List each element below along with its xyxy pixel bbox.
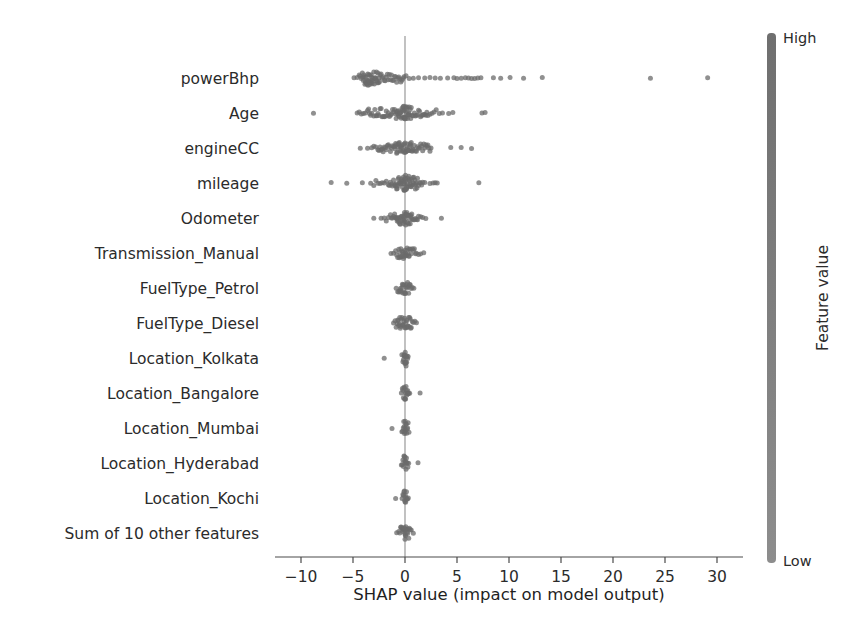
shap-point xyxy=(360,180,365,185)
feature-label-transmission-manual: Transmission_Manual xyxy=(94,245,259,264)
shap-point xyxy=(406,461,411,466)
x-tick-label: 10 xyxy=(499,568,519,586)
shap-point xyxy=(411,531,416,536)
feature-label-mileage: mileage xyxy=(197,175,259,193)
feature-label-location-mumbai: Location_Mumbai xyxy=(124,420,259,439)
feature-label-powerbhp: powerBhp xyxy=(181,70,259,88)
shap-point xyxy=(440,110,445,115)
shap-point xyxy=(414,320,419,325)
shap-point xyxy=(371,216,376,221)
shap-point xyxy=(371,183,376,188)
shap-point xyxy=(382,356,387,361)
shap-point xyxy=(435,180,440,185)
shap-summary-figure: powerBhpAgeengineCCmileageOdometerTransm… xyxy=(0,0,853,642)
feature-label-location-hyderabad: Location_Hyderabad xyxy=(100,455,259,474)
colorbar-high-label: High xyxy=(783,30,816,46)
colorbar-title: Feature value xyxy=(814,245,832,351)
x-axis-title: SHAP value (impact on model output) xyxy=(353,585,664,604)
x-tick-label: 0 xyxy=(400,568,410,586)
x-tick-label: 20 xyxy=(603,568,623,586)
feature-label-fueltype-diesel: FuelType_Diesel xyxy=(136,315,259,334)
shap-point xyxy=(406,291,411,296)
shap-point xyxy=(372,107,377,112)
shap-point xyxy=(329,180,334,185)
shap-point xyxy=(408,221,413,226)
shap-point xyxy=(406,430,411,435)
shap-point xyxy=(459,145,464,150)
shap-point xyxy=(409,325,414,330)
shap-point xyxy=(404,455,409,460)
shap-point xyxy=(366,106,371,111)
shap-point xyxy=(390,426,395,431)
shap-point xyxy=(421,250,426,255)
figure-background xyxy=(0,0,853,642)
shap-point xyxy=(416,460,421,465)
shap-point xyxy=(406,495,411,500)
shap-point xyxy=(422,180,427,185)
shap-point xyxy=(406,420,411,425)
shap-point xyxy=(498,76,503,81)
colorbar-low-label: Low xyxy=(783,553,812,569)
shap-point xyxy=(478,75,483,80)
feature-label-location-kochi: Location_Kochi xyxy=(144,490,259,509)
shap-point xyxy=(416,75,421,80)
x-tick-label: 5 xyxy=(452,568,462,586)
shap-point xyxy=(344,181,349,186)
colorbar-gradient-bar xyxy=(767,33,776,563)
shap-point xyxy=(491,75,496,80)
shap-point xyxy=(411,286,416,291)
shap-point xyxy=(448,145,453,150)
shap-point xyxy=(445,75,450,80)
shap-point xyxy=(446,111,451,116)
shap-point xyxy=(540,75,545,80)
shap-point xyxy=(483,110,488,115)
shap-point xyxy=(508,75,513,80)
shap-point xyxy=(476,180,481,185)
shap-point xyxy=(450,110,455,115)
shap-point xyxy=(705,75,710,80)
feature-label-fueltype-petrol: FuelType_Petrol xyxy=(140,280,259,299)
feature-label-location-bangalore: Location_Bangalore xyxy=(107,385,259,404)
shap-point xyxy=(409,211,414,216)
shap-point xyxy=(429,145,434,150)
shap-point xyxy=(407,391,412,396)
shap-beeswarm-chart: powerBhpAgeengineCCmileageOdometerTransm… xyxy=(0,0,853,642)
feature-label-sum-of-10-other-features: Sum of 10 other features xyxy=(65,525,259,543)
shap-point xyxy=(406,536,411,541)
shap-point xyxy=(409,105,414,110)
shap-point xyxy=(422,76,427,81)
shap-point xyxy=(459,76,464,81)
shap-point xyxy=(311,111,316,116)
shap-point xyxy=(423,216,428,221)
shap-point xyxy=(433,75,438,80)
shap-point xyxy=(404,489,409,494)
shap-point xyxy=(405,426,410,431)
shap-point xyxy=(404,360,409,365)
shap-point xyxy=(427,75,432,80)
shap-point xyxy=(469,146,474,151)
shap-point xyxy=(521,76,526,81)
x-tick-label: −10 xyxy=(285,568,318,586)
feature-label-age: Age xyxy=(229,105,259,123)
shap-point xyxy=(393,496,398,501)
shap-point xyxy=(406,354,411,359)
shap-point xyxy=(358,146,363,151)
shap-point xyxy=(379,106,384,111)
feature-label-enginecc: engineCC xyxy=(184,140,259,158)
feature-label-location-kolkata: Location_Kolkata xyxy=(129,350,259,369)
x-tick-label: 25 xyxy=(655,568,675,586)
x-tick-label: 15 xyxy=(551,568,571,586)
feature-label-odometer: Odometer xyxy=(181,210,260,228)
shap-point xyxy=(438,76,443,81)
x-tick-label: 30 xyxy=(707,568,727,586)
shap-point xyxy=(415,176,420,181)
shap-point xyxy=(648,76,653,81)
shap-point xyxy=(418,390,423,395)
x-tick-label: −5 xyxy=(342,568,365,586)
shap-point xyxy=(411,76,416,81)
shap-point xyxy=(439,216,444,221)
shap-point xyxy=(412,246,417,251)
